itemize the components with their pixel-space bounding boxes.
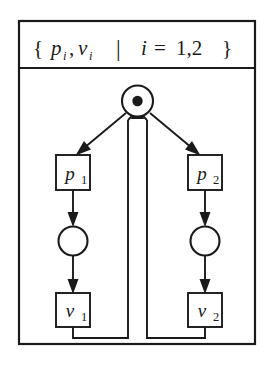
header-index-variable: i (141, 36, 147, 60)
transition-v2-subscript: 2 (213, 310, 219, 324)
petri-net-canvas: { p i , v i | i = 1,2 } (0, 0, 273, 366)
transition-p1-subscript: 1 (81, 173, 87, 187)
place-right-node[interactable] (191, 227, 220, 256)
petri-net-figure: { p i , v i | i = 1,2 } (0, 0, 273, 366)
transition-p2-subscript: 2 (213, 173, 219, 187)
header-separator-bar: | (116, 36, 121, 61)
root-place-token-icon (132, 96, 142, 106)
header-symbol-p-subscript: i (63, 49, 67, 63)
transition-v1-label: v (66, 300, 75, 321)
transition-v1-subscript: 1 (81, 310, 87, 324)
transition-p1-label: p (63, 163, 75, 184)
header-index-values: 1,2 (176, 36, 202, 60)
header-symbol-v: v (78, 36, 88, 60)
header-comma: , (69, 36, 74, 60)
header-symbol-p: p (49, 36, 62, 60)
transition-p2-label: p (195, 163, 207, 184)
header-symbol-v-subscript: i (89, 49, 93, 63)
transition-v2-label: v (198, 300, 207, 321)
place-left-node[interactable] (59, 227, 88, 256)
header-open-brace: { (33, 36, 43, 60)
header-close-brace: } (222, 36, 232, 60)
header-equals-sign: = (154, 36, 166, 60)
